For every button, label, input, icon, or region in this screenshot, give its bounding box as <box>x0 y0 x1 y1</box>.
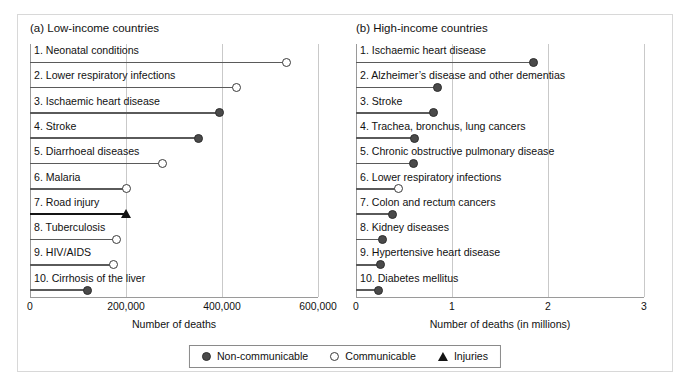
data-point-marker-cm[interactable] <box>282 58 291 67</box>
data-point-marker-nc[interactable] <box>433 83 442 92</box>
row-stem <box>356 213 392 215</box>
chart-row: 6. Lower respiratory infections <box>356 171 668 196</box>
data-point-marker-nc[interactable] <box>409 159 418 168</box>
row-label: 2. Alzheimer’s disease and other dementi… <box>360 69 565 82</box>
row-label: 6. Malaria <box>34 171 81 184</box>
data-point-marker-nc[interactable] <box>194 134 203 143</box>
row-label: 9. Hypertensive heart disease <box>360 246 500 259</box>
data-point-marker-cm[interactable] <box>158 159 167 168</box>
legend-item[interactable]: Non-communicable <box>202 350 308 362</box>
x-axis-title: Number of deaths <box>132 318 216 330</box>
chart-row: 4. Stroke <box>30 120 342 145</box>
row-stem <box>30 188 127 190</box>
data-point-marker-nc[interactable] <box>378 235 387 244</box>
chart-row: 5. Diarrhoeal diseases <box>30 145 342 170</box>
figure-root: (a) Low-income countries 1. Neonatal con… <box>0 0 690 390</box>
data-point-marker-nc[interactable] <box>215 108 224 117</box>
data-point-marker-nc[interactable] <box>388 210 397 219</box>
legend-item[interactable]: Injuries <box>438 350 488 362</box>
row-label: 7. Road injury <box>34 196 99 209</box>
chart-row: 2. Lower respiratory infections <box>30 69 342 94</box>
row-stem <box>30 264 113 266</box>
data-point-marker-inj[interactable] <box>121 209 131 218</box>
chart-row: 1. Neonatal conditions <box>30 44 342 69</box>
data-point-marker-cm[interactable] <box>122 184 131 193</box>
data-point-marker-cm[interactable] <box>394 184 403 193</box>
data-point-marker-nc[interactable] <box>529 58 538 67</box>
chart-row: 9. HIV/AIDS <box>30 246 342 271</box>
panel-high-income: (b) High-income countries 1. Ischaemic h… <box>348 22 668 322</box>
legend-label: Communicable <box>345 350 416 362</box>
chart-row: 10. Diabetes mellitus <box>356 272 668 297</box>
row-stem <box>356 188 398 190</box>
filled-triangle-icon <box>438 352 448 361</box>
panel-b-plot-area: 1. Ischaemic heart disease2. Alzheimer’s… <box>356 44 668 297</box>
row-label: 1. Ischaemic heart disease <box>360 44 486 57</box>
row-stem <box>356 163 414 165</box>
row-label: 5. Chronic obstructive pulmonary disease <box>360 145 554 158</box>
row-stem <box>30 112 220 114</box>
chart-row: 7. Road injury <box>30 196 342 221</box>
data-point-marker-cm[interactable] <box>112 235 121 244</box>
chart-row: 6. Malaria <box>30 171 342 196</box>
chart-row: 3. Ischaemic heart disease <box>30 95 342 120</box>
chart-row: 3. Stroke <box>356 95 668 120</box>
x-axis-line-b <box>356 297 644 298</box>
row-label: 10. Cirrhosis of the liver <box>34 272 145 285</box>
row-stem <box>30 87 236 89</box>
data-point-marker-nc[interactable] <box>410 134 419 143</box>
row-stem <box>30 62 287 64</box>
chart-row: 8. Tuberculosis <box>30 221 342 246</box>
row-label: 3. Stroke <box>360 95 402 108</box>
x-tick-label: 600,000 <box>299 301 337 312</box>
x-tick-label: 0 <box>27 301 33 312</box>
row-label: 4. Trachea, bronchus, lung cancers <box>360 120 525 133</box>
row-label: 3. Ischaemic heart disease <box>34 95 160 108</box>
x-axis-line-a <box>30 297 318 298</box>
chart-row: 8. Kidney diseases <box>356 221 668 246</box>
row-label: 6. Lower respiratory infections <box>360 171 501 184</box>
x-tick-label: 3 <box>641 301 647 312</box>
x-tick-label: 400,000 <box>203 301 241 312</box>
panel-a-plot-area: 1. Neonatal conditions2. Lower respirato… <box>30 44 342 297</box>
data-point-marker-cm[interactable] <box>109 260 118 269</box>
chart-legend: Non-communicableCommunicableInjuries <box>189 345 501 368</box>
chart-row: 7. Colon and rectum cancers <box>356 196 668 221</box>
row-label: 8. Kidney diseases <box>360 221 449 234</box>
row-stem <box>356 112 434 114</box>
row-stem <box>30 137 198 139</box>
row-label: 5. Diarrhoeal diseases <box>34 145 139 158</box>
chart-row: 5. Chronic obstructive pulmonary disease <box>356 145 668 170</box>
row-stem <box>30 163 163 165</box>
row-stem <box>30 213 126 216</box>
row-stem <box>356 137 415 139</box>
row-label: 10. Diabetes mellitus <box>360 272 458 285</box>
row-label: 7. Colon and rectum cancers <box>360 196 495 209</box>
open-circle-icon <box>330 352 339 361</box>
data-point-marker-nc[interactable] <box>429 108 438 117</box>
data-point-marker-nc[interactable] <box>376 260 385 269</box>
chart-row: 10. Cirrhosis of the liver <box>30 272 342 297</box>
row-label: 9. HIV/AIDS <box>34 246 91 259</box>
row-stem <box>356 87 438 89</box>
row-stem <box>30 289 88 291</box>
data-point-marker-nc[interactable] <box>83 286 92 295</box>
chart-row: 2. Alzheimer’s disease and other dementi… <box>356 69 668 94</box>
row-stem <box>30 239 117 241</box>
legend-label: Injuries <box>454 350 488 362</box>
row-label: 8. Tuberculosis <box>34 221 105 234</box>
data-point-marker-cm[interactable] <box>232 83 241 92</box>
x-tick-label: 0 <box>353 301 359 312</box>
chart-row: 1. Ischaemic heart disease <box>356 44 668 69</box>
chart-row: 4. Trachea, bronchus, lung cancers <box>356 120 668 145</box>
data-point-marker-nc[interactable] <box>374 286 383 295</box>
legend-item[interactable]: Communicable <box>330 350 416 362</box>
x-axis-title: Number of deaths (in millions) <box>430 318 571 330</box>
chart-row: 9. Hypertensive heart disease <box>356 246 668 271</box>
row-label: 2. Lower respiratory infections <box>34 69 175 82</box>
x-tick-label: 2 <box>545 301 551 312</box>
panel-b-title: (b) High-income countries <box>356 22 488 34</box>
row-label: 4. Stroke <box>34 120 76 133</box>
filled-circle-icon <box>202 352 211 361</box>
row-stem <box>356 62 534 64</box>
